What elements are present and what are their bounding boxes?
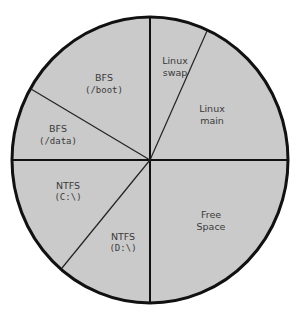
- svg-text:Linux: Linux: [162, 55, 188, 66]
- svg-text:(/data): (/data): [39, 136, 77, 146]
- svg-text:BFS: BFS: [49, 123, 67, 134]
- svg-text:(C:\): (C:\): [54, 192, 81, 202]
- svg-text:Space: Space: [197, 221, 226, 232]
- svg-text:main: main: [200, 115, 224, 126]
- svg-text:swap: swap: [163, 67, 188, 78]
- partition-pie-diagram: Linux swap Linux main Free Space NTFS (D…: [0, 0, 301, 317]
- svg-text:Linux: Linux: [199, 103, 225, 114]
- svg-text:Free: Free: [201, 209, 221, 220]
- svg-text:NTFS: NTFS: [111, 231, 135, 242]
- svg-text:(D:\): (D:\): [109, 243, 136, 253]
- partition-linux-swap: Linux swap: [162, 55, 188, 78]
- svg-text:(/boot): (/boot): [85, 85, 123, 95]
- partition-linux-main: Linux main: [199, 103, 225, 126]
- svg-text:BFS: BFS: [95, 72, 113, 83]
- svg-text:NTFS: NTFS: [56, 180, 80, 191]
